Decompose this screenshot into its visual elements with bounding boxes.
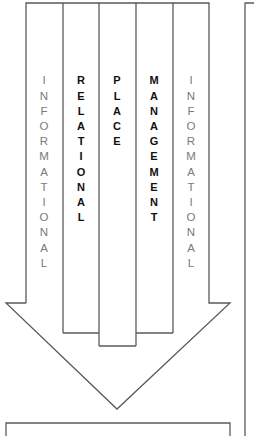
column-informational-right: I N F O R M A T I O N A L xyxy=(173,43,209,286)
column-label: I N F O R M A T I O N A L xyxy=(173,73,209,271)
column-informational-left: I N F O R M A T I O N A L xyxy=(26,43,62,286)
column-label: M A N A G E M E N T xyxy=(136,73,172,225)
column-management: M A N A G E M E N T xyxy=(136,43,172,241)
column-label: R E L A T I O N A L xyxy=(63,73,99,225)
column-label: I N F O R M A T I O N A L xyxy=(26,73,62,271)
bottom-box xyxy=(6,423,230,436)
column-label: P L A C E xyxy=(99,73,135,149)
right-panel-border xyxy=(245,3,254,436)
column-relational: R E L A T I O N A L xyxy=(63,43,99,241)
column-place: P L A C E xyxy=(99,43,135,165)
